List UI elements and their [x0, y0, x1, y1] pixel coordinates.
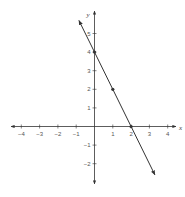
- data-point: [93, 51, 96, 54]
- x-tick-label: 2: [129, 131, 133, 137]
- x-tick-label: −3: [36, 131, 44, 137]
- y-tick-label: 3: [87, 68, 91, 74]
- y-tick-label: −2: [84, 161, 92, 167]
- data-point: [111, 88, 114, 91]
- y-tick-label: 4: [87, 49, 91, 55]
- graph-canvas: xy −4−3−2−1123454321−1−2: [0, 0, 185, 197]
- x-tick-label: −2: [54, 131, 62, 137]
- x-tick-label: 4: [166, 131, 170, 137]
- y-tick-label: 2: [87, 86, 91, 92]
- y-tick-label: 5: [87, 31, 91, 37]
- axes: xy: [11, 11, 183, 184]
- x-tick-label: −4: [18, 131, 26, 137]
- data-series: [79, 20, 155, 174]
- data-point: [130, 125, 133, 128]
- y-tick-label: 1: [87, 105, 91, 111]
- x-tick-label: 3: [148, 131, 152, 137]
- x-tick-label: 1: [111, 131, 115, 137]
- y-axis-label: y: [86, 11, 91, 19]
- x-axis-label: x: [178, 124, 183, 132]
- function-line: [79, 20, 155, 174]
- x-tick-label: −1: [73, 131, 81, 137]
- y-tick-label: −1: [84, 142, 92, 148]
